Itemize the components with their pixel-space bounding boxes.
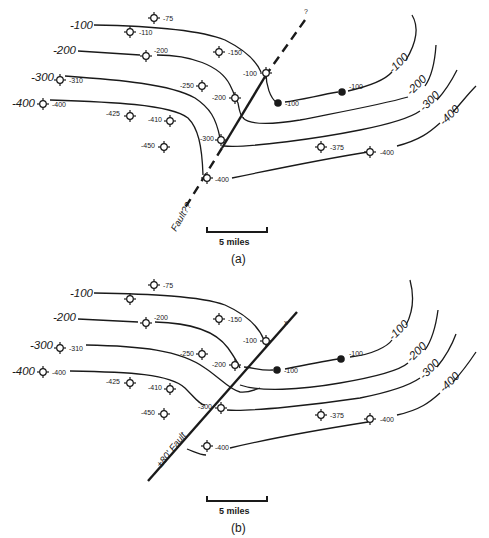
well-symbol	[315, 141, 327, 153]
well-symbol	[140, 317, 152, 329]
well-symbol	[158, 141, 170, 153]
contour-label-minus-300: -300	[30, 339, 54, 351]
well-depth-label: -75	[163, 282, 173, 289]
well-symbol	[364, 146, 376, 158]
well-symbol	[124, 293, 136, 305]
well-depth-label: -150	[228, 316, 242, 323]
well-depth-label: -200	[154, 47, 168, 54]
scale-bar	[207, 227, 267, 232]
well-depth-label: -310	[69, 77, 83, 84]
control-point-label: -100	[349, 350, 363, 357]
well-symbol	[54, 74, 66, 86]
contour-label-minus-400: -400	[12, 97, 36, 109]
well-depth-label: -250	[180, 82, 194, 89]
fault-label: ±80' Fault	[154, 430, 188, 470]
well-symbol	[260, 67, 272, 79]
well-symbol	[54, 342, 66, 354]
well-depth-label: -150	[228, 49, 242, 56]
well-symbol	[229, 359, 241, 371]
contour-label-minus-400: -400	[12, 365, 36, 377]
well-depth-label: -310	[69, 345, 83, 352]
fault-mark-x: x	[284, 319, 288, 326]
well-symbol	[148, 12, 160, 24]
well-symbol	[37, 98, 49, 110]
panel-b: x ±80' Fault -100 -200 -300 -400 -100 -2…	[12, 279, 476, 535]
contour-label-minus-100: -100	[70, 287, 94, 299]
scale-label: 5 miles	[219, 506, 250, 516]
well-symbol	[364, 413, 376, 425]
contour-minus-400-west	[70, 371, 205, 405]
contour-minus-400-west	[50, 100, 203, 175]
contour-minus-100-east	[244, 280, 413, 370]
well-depth-label: -200	[212, 94, 226, 101]
well-depth-label: -450	[141, 142, 155, 149]
scale-bar	[207, 496, 267, 501]
well-symbol	[148, 279, 160, 291]
panel-caption-a: (a)	[231, 252, 246, 266]
control-point-label: -100	[349, 83, 363, 90]
well-depth-label: -400	[380, 416, 394, 423]
control-point-label: -100	[285, 100, 299, 107]
contour-minus-200-east	[240, 310, 438, 389]
well-symbol	[158, 408, 170, 420]
contour-label-minus-200: -200	[53, 44, 77, 56]
well-symbol	[229, 92, 241, 104]
well-depth-label: -400	[215, 444, 229, 451]
contour-label-minus-400-east: -400	[437, 369, 462, 394]
well-depth-label: -450	[141, 409, 155, 416]
well-depth-label: -75	[163, 15, 173, 22]
well-depth-label: -375	[330, 412, 344, 419]
control-point-dot	[337, 355, 345, 363]
well-symbol	[315, 409, 327, 421]
well-symbol	[164, 115, 176, 127]
well-depth-label: -300	[198, 403, 212, 410]
control-point-dot	[274, 99, 282, 107]
well-symbol	[140, 50, 152, 62]
panel-caption-b: (b)	[231, 521, 246, 535]
well-depth-label: -300	[200, 135, 214, 142]
fault-query-mark: ?	[304, 8, 308, 15]
contour-minus-300-west	[65, 76, 220, 138]
well-symbol	[124, 377, 136, 389]
well-symbol	[164, 383, 176, 395]
well-symbol	[213, 313, 225, 325]
well-symbol	[260, 335, 272, 347]
well-depth-label: -425	[106, 378, 120, 385]
fault-line-queried	[266, 20, 305, 75]
well-depth-label: -400	[52, 101, 66, 108]
panel-a: ? Fault?? -100 -200 -300 -400 -100 -200 …	[12, 8, 476, 266]
control-point-label: -100	[284, 367, 298, 374]
well-symbol	[124, 110, 136, 122]
well-depth-label: -250	[180, 350, 194, 357]
fault-line-solid-segment	[222, 75, 266, 148]
contour-label-minus-200-east: -200	[404, 339, 429, 364]
scale-label: 5 miles	[219, 237, 250, 247]
well-depth-label: -410	[148, 384, 162, 391]
contour-label-minus-300-east: -300	[417, 356, 442, 381]
contour-label-minus-200: -200	[53, 311, 77, 323]
well-depth-label: -400	[215, 176, 229, 183]
well-symbol	[124, 26, 136, 38]
well-depth-label: -110	[139, 29, 153, 36]
contour-minus-400-east	[232, 86, 476, 178]
contour-label-minus-300: -300	[31, 71, 55, 83]
well-symbol	[37, 366, 49, 378]
structure-contour-maps: ? Fault?? -100 -200 -300 -400 -100 -200 …	[0, 0, 489, 538]
fault-label: Fault??	[168, 199, 194, 233]
contour-label-minus-100-east: -100	[386, 50, 411, 75]
well-symbol	[213, 46, 225, 58]
well-depth-label: -425	[106, 110, 120, 117]
well-depth-label: -400	[52, 369, 66, 376]
well-depth-label: -200	[154, 314, 168, 321]
well-depth-label: -400	[380, 149, 394, 156]
control-point-dot	[273, 366, 281, 374]
well-depth-label: -200	[212, 361, 226, 368]
well-depth-label: -410	[148, 116, 162, 123]
contour-label-minus-300-east: -300	[417, 88, 442, 113]
contour-label-minus-100: -100	[70, 19, 94, 31]
well-depth-label: -375	[330, 144, 344, 151]
well-symbol	[201, 440, 213, 452]
well-depth-label: -100	[243, 337, 257, 344]
well-depth-label: -100	[243, 70, 257, 77]
well-symbol	[196, 80, 208, 92]
